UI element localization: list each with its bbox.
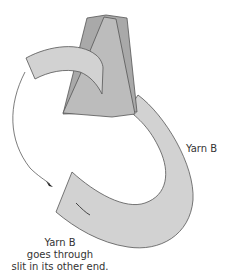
label-yarn-b-right: Yarn B xyxy=(186,143,217,155)
caption-line-2: goes through xyxy=(10,249,110,261)
label-yarn-b-caption: Yarn B goes through slit in its other en… xyxy=(10,237,110,273)
motion-arrow-line xyxy=(13,72,50,184)
caption-line-1: Yarn B xyxy=(10,237,110,249)
caption-line-3: slit in its other end. xyxy=(10,261,110,273)
yarn-b-long-band xyxy=(56,95,193,248)
